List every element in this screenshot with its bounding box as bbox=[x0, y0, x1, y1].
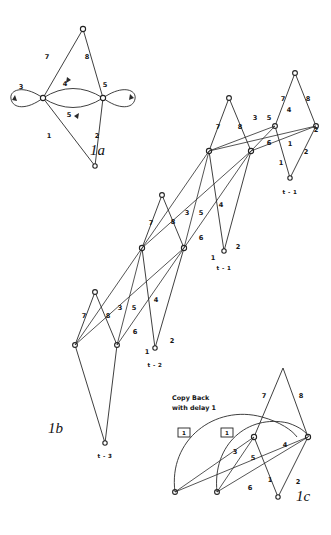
edge-label: 1 bbox=[288, 140, 293, 148]
edge-label: 8 bbox=[299, 392, 304, 400]
edge-label: 1 bbox=[279, 159, 284, 167]
delay-box-label: 1 bbox=[182, 430, 186, 436]
edge-label: 7 bbox=[262, 392, 267, 400]
figure-1c: 1 1 Copy Back with delay 1 7 8 3 5 4 6 1… bbox=[172, 368, 311, 504]
node-1b-s1-bottom bbox=[222, 249, 226, 253]
node-1c-bottom bbox=[276, 495, 280, 499]
edge-label: 4 bbox=[219, 201, 224, 209]
edge-label: 8 bbox=[171, 218, 176, 226]
edge-label: 5 bbox=[103, 81, 108, 89]
edge-label: 5 bbox=[251, 454, 256, 462]
edge-label: 4 bbox=[287, 106, 292, 114]
edge-1a-8 bbox=[83, 29, 103, 98]
edge-1a-4 bbox=[43, 89, 103, 99]
edge-label: 7 bbox=[82, 312, 87, 320]
edge-1c-8 bbox=[283, 368, 308, 437]
edge-label: 7 bbox=[149, 219, 154, 227]
copy-back-annotation-line2: with delay 1 bbox=[172, 404, 216, 412]
delay-box-label: 1 bbox=[225, 430, 229, 436]
edge-label: 7 bbox=[281, 95, 286, 103]
node-1b-st-bottom bbox=[288, 176, 292, 180]
node-1a-bottom bbox=[93, 164, 97, 168]
figure-caption-1b: 1b bbox=[48, 420, 64, 436]
time-label: t - 1 bbox=[217, 265, 232, 271]
edge-label: 2 bbox=[236, 243, 241, 251]
edge-label: 6 bbox=[133, 328, 138, 336]
edge-label: 3 bbox=[185, 209, 190, 217]
node-1b-s3-top bbox=[93, 290, 98, 295]
edge-1b-x-6b bbox=[184, 151, 209, 248]
arrowhead-1a-5b bbox=[129, 94, 134, 100]
edge-label: 3 bbox=[19, 83, 24, 91]
time-label: t - 2 bbox=[148, 362, 163, 368]
node-1b-s3-bottom bbox=[103, 441, 107, 445]
node-1a-right bbox=[100, 95, 105, 100]
node-1a-left bbox=[40, 95, 45, 100]
edge-label: 3 bbox=[253, 114, 258, 122]
edge-label: 2 bbox=[95, 132, 100, 140]
node-1a-top bbox=[80, 26, 85, 31]
edge-1b-s1-2 bbox=[224, 151, 251, 251]
figure-caption-1a: 1a bbox=[90, 142, 105, 158]
edge-label: 5 bbox=[267, 114, 272, 122]
edge-1b-s3-1 bbox=[75, 345, 105, 443]
edge-label: 7 bbox=[216, 123, 221, 131]
edge-label: 1 bbox=[211, 254, 216, 262]
edge-label: 6 bbox=[199, 234, 204, 242]
edge-label: 8 bbox=[306, 95, 311, 103]
edge-label: 3 bbox=[233, 448, 238, 456]
edge-label: 7 bbox=[45, 53, 50, 61]
edge-label: 2 bbox=[296, 478, 301, 486]
edge-label: 8 bbox=[85, 53, 90, 61]
edge-label: 2 bbox=[170, 337, 175, 345]
edge-label: 8 bbox=[238, 123, 243, 131]
node-1b-s2-bottom bbox=[153, 346, 157, 350]
edge-label: 4 bbox=[63, 80, 68, 88]
node-1b-s1-top bbox=[227, 96, 232, 101]
edge-1b-x-4b bbox=[184, 151, 251, 248]
arrowhead-1a-5 bbox=[74, 113, 79, 119]
node-1b-st-top bbox=[293, 71, 298, 76]
node-1b-s2-top bbox=[160, 193, 165, 198]
edge-label: 1 bbox=[268, 476, 273, 484]
figure-caption-1c: 1c bbox=[296, 488, 311, 504]
edge-label: 6 bbox=[248, 484, 253, 492]
figure-1a: 7 8 3 4 5 1 5 2 1a bbox=[11, 26, 135, 168]
edge-label: 1 bbox=[145, 348, 150, 356]
edge-label: 5 bbox=[132, 304, 137, 312]
edge-1b-x-6c bbox=[251, 126, 275, 151]
time-label: t - 1 bbox=[283, 189, 298, 195]
edge-label: 4 bbox=[154, 296, 159, 304]
edge-label: 2 bbox=[314, 126, 319, 134]
edge-label: 8 bbox=[106, 312, 111, 320]
edge-1b-s2-2 bbox=[155, 248, 184, 348]
edge-label: 2 bbox=[304, 148, 309, 156]
edge-label: 1 bbox=[47, 132, 52, 140]
figure-canvas: 7 8 3 4 5 1 5 2 1a bbox=[0, 0, 331, 535]
edge-1b-s3-2 bbox=[105, 345, 117, 443]
edge-1a-5 bbox=[43, 98, 103, 108]
edge-1b-x-4 bbox=[117, 248, 184, 345]
edge-label: 5 bbox=[199, 209, 204, 217]
edge-label: 5 bbox=[67, 111, 72, 119]
edge-label: 6 bbox=[267, 139, 272, 147]
time-label: t - 3 bbox=[98, 453, 113, 459]
copy-back-annotation-line1: Copy Back bbox=[172, 394, 210, 402]
edge-1b-x-6 bbox=[117, 248, 142, 345]
edge-1c-7 bbox=[254, 368, 283, 437]
arrowhead-1a-3 bbox=[12, 95, 17, 101]
edge-label: 3 bbox=[118, 304, 123, 312]
edge-label: 4 bbox=[283, 441, 288, 449]
